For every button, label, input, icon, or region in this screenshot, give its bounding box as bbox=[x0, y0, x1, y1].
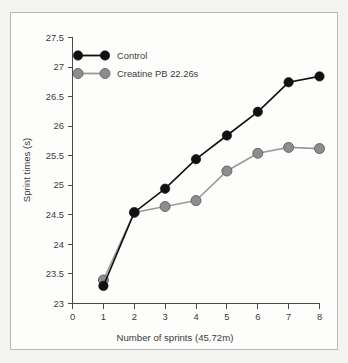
x-axis-ticks bbox=[73, 304, 320, 309]
y-tick-label: 26.5 bbox=[46, 91, 64, 102]
x-tick-label: 0 bbox=[70, 311, 75, 322]
chart-figure: 23 23.5 24 24.5 25 25.5 26 26.5 27 27.5 … bbox=[0, 0, 348, 363]
y-tick-label: 24.5 bbox=[46, 209, 64, 220]
line-chart: 23 23.5 24 24.5 25 25.5 26 26.5 27 27.5 … bbox=[0, 0, 348, 363]
legend-item-control: Control bbox=[73, 50, 147, 61]
legend-marker-creatine bbox=[73, 69, 83, 79]
data-point bbox=[253, 148, 263, 158]
data-point bbox=[191, 155, 200, 164]
data-point bbox=[315, 72, 324, 81]
data-point bbox=[99, 281, 108, 290]
y-tick-label: 23.5 bbox=[46, 268, 64, 279]
series-line-control bbox=[103, 76, 319, 286]
y-axis-ticks bbox=[68, 37, 73, 303]
y-tick-label: 23 bbox=[54, 298, 64, 309]
x-tick-label: 3 bbox=[162, 311, 167, 322]
x-tick-label: 8 bbox=[317, 311, 322, 322]
x-tick-label: 1 bbox=[101, 311, 106, 322]
data-point bbox=[222, 166, 232, 176]
x-tick-label: 5 bbox=[224, 311, 229, 322]
data-point bbox=[191, 196, 201, 206]
x-tick-label: 2 bbox=[132, 311, 137, 322]
y-axis-tick-labels: 23 23.5 24 24.5 25 25.5 26 26.5 27 27.5 bbox=[46, 32, 64, 309]
legend-label-control: Control bbox=[117, 50, 147, 61]
data-point bbox=[160, 184, 169, 193]
data-point bbox=[253, 107, 262, 116]
data-point bbox=[315, 144, 325, 154]
x-tick-label: 6 bbox=[255, 311, 260, 322]
y-tick-label: 24 bbox=[54, 239, 64, 250]
legend-item-creatine: Creatine PB 22.26s bbox=[73, 68, 199, 79]
legend-marker-control bbox=[100, 51, 109, 60]
data-point bbox=[284, 142, 294, 152]
x-axis-title: Number of sprints (45.72m) bbox=[117, 332, 234, 343]
data-point bbox=[160, 202, 170, 212]
y-tick-label: 27.5 bbox=[46, 32, 64, 43]
legend-marker-creatine bbox=[100, 69, 110, 79]
chart-legend: Control Creatine PB 22.26s bbox=[73, 50, 199, 79]
y-tick-label: 27 bbox=[54, 61, 64, 72]
y-axis-title: Sprint times (s) bbox=[21, 138, 32, 203]
data-point bbox=[222, 131, 231, 140]
data-point bbox=[284, 78, 293, 87]
data-point bbox=[130, 208, 139, 217]
x-axis-tick-labels: 0 1 2 3 4 5 6 7 8 bbox=[70, 311, 322, 322]
legend-label-creatine: Creatine PB 22.26s bbox=[117, 68, 199, 79]
y-tick-label: 25.5 bbox=[46, 150, 64, 161]
y-tick-label: 25 bbox=[54, 179, 64, 190]
legend-marker-control bbox=[73, 51, 82, 60]
x-tick-label: 7 bbox=[286, 311, 291, 322]
x-tick-label: 4 bbox=[193, 311, 198, 322]
y-tick-label: 26 bbox=[54, 120, 64, 131]
series-control bbox=[99, 72, 324, 291]
